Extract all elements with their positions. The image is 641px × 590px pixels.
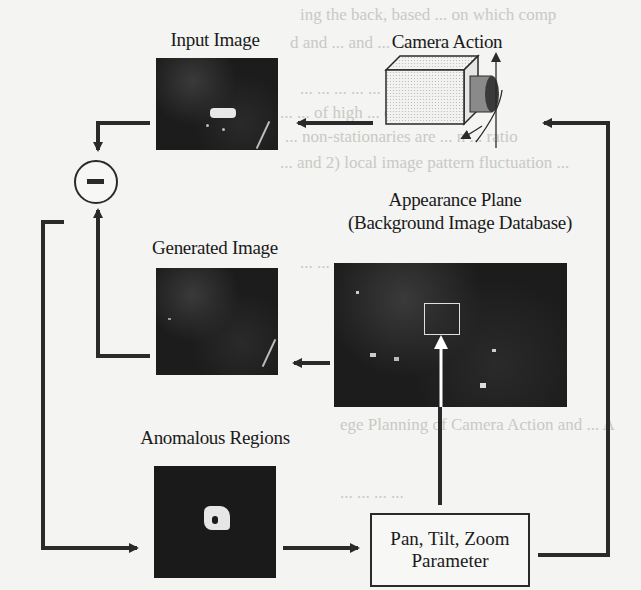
input-image-photo [156, 58, 278, 150]
appearance-plane-photo [334, 263, 567, 407]
anomalous-regions-label: Anomalous Regions [120, 428, 310, 448]
edge-input-to-subtract [98, 123, 150, 150]
subtract-node [74, 160, 118, 204]
edge-generated-to-subtract [98, 210, 150, 356]
edge-subtract-to-anomalous [43, 222, 137, 548]
anomalous-regions-photo [154, 466, 276, 578]
car-blob [210, 108, 236, 118]
generated-image-photo [156, 268, 278, 375]
ptz-label-line1: Pan, Tilt, Zoom [390, 528, 509, 550]
appearance-plane-subtitle: (Background Image Database) [310, 213, 610, 233]
view-window-rect [424, 303, 460, 335]
ptz-parameter-box: Pan, Tilt, Zoom Parameter [370, 513, 530, 587]
camera-icon [380, 50, 520, 160]
generated-image-label: Generated Image [140, 238, 290, 258]
appearance-plane-title: Appearance Plane [340, 190, 570, 210]
input-image-label: Input Image [150, 30, 280, 50]
minus-icon [87, 179, 104, 184]
camera-action-label: Camera Action [372, 32, 522, 52]
ptz-label-line2: Parameter [411, 550, 488, 572]
